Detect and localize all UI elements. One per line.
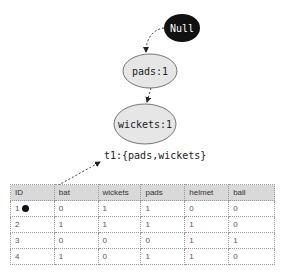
table-row: 3 0 0 0 1 1 [11, 233, 275, 249]
cell: 0 [229, 217, 275, 233]
cell: 1 [141, 217, 185, 233]
cell: 1 [141, 249, 185, 265]
transaction-label: t1:{pads,wickets} [104, 150, 206, 161]
cell: 0 [185, 201, 229, 217]
cell: 0 [141, 233, 185, 249]
cell: 0 [98, 233, 141, 249]
table-header-row: ID bat wickets pads helmet ball [11, 185, 275, 201]
cell: 0 [229, 249, 275, 265]
row-pointer-dot-icon [22, 205, 29, 212]
cell: 1 [54, 217, 98, 233]
cell: 1 [98, 201, 141, 217]
node-null-label: Null [170, 23, 194, 34]
cell-id: 4 [11, 249, 55, 265]
node-pads-label: pads:1 [132, 66, 168, 77]
node-pads: pads:1 [123, 54, 177, 88]
column-header-bat: bat [54, 185, 98, 201]
column-header-pads: pads [141, 185, 185, 201]
cell-id: 1 [11, 201, 55, 217]
table-row: 4 1 0 1 1 0 [11, 249, 275, 265]
cell: 0 [54, 201, 98, 217]
node-wickets: wickets:1 [114, 104, 176, 144]
transactions-table: ID bat wickets pads helmet ball 1 0 1 1 … [10, 184, 275, 265]
table-row: 1 0 1 1 0 0 [11, 201, 275, 217]
cell: 1 [54, 249, 98, 265]
node-null: Null [164, 14, 200, 42]
cell: 0 [54, 233, 98, 249]
cell: 1 [98, 217, 141, 233]
cell: 1 [185, 233, 229, 249]
column-header-helmet: helmet [185, 185, 229, 201]
cell: 1 [185, 217, 229, 233]
column-header-id: ID [11, 185, 55, 201]
cell: 1 [141, 201, 185, 217]
cell-id-value: 1 [15, 204, 19, 213]
cell: 1 [229, 233, 275, 249]
node-wickets-label: wickets:1 [118, 119, 172, 130]
cell-id: 3 [11, 233, 55, 249]
edge-null-to-pads [146, 28, 164, 52]
column-header-wickets: wickets [98, 185, 141, 201]
cell: 0 [229, 201, 275, 217]
edge-pads-to-wickets [147, 88, 151, 102]
cell: 1 [185, 249, 229, 265]
column-header-ball: ball [229, 185, 275, 201]
cell-id: 2 [11, 217, 55, 233]
table-row: 2 1 1 1 1 0 [11, 217, 275, 233]
cell: 0 [98, 249, 141, 265]
